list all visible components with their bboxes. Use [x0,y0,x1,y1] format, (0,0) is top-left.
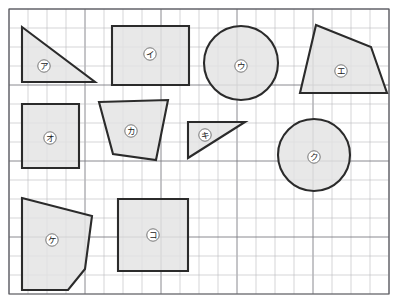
shape-label-ア: ア [40,61,49,71]
shape-label-ウ: ウ [237,61,246,71]
shape-label-カ: カ [127,126,136,136]
shape-label-イ: イ [146,49,155,59]
worksheet-canvas: アイウエオカキクケコ [0,0,400,298]
shape-label-オ: オ [46,133,55,143]
shape-label-ケ: ケ [48,235,57,245]
shape-label-キ: キ [201,130,210,140]
shapes-figure: アイウエオカキクケコ [0,0,400,298]
shape-label-エ: エ [337,66,346,76]
shape-label-ク: ク [310,152,319,162]
shape-label-コ: コ [149,230,158,240]
